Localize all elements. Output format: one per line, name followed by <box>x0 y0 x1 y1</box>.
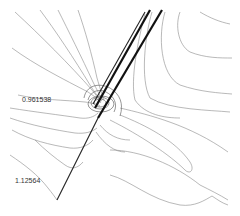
contour-label-1: 0.961538 <box>22 96 51 103</box>
contour-lines-lower-right <box>96 108 228 205</box>
contour-plot: 0.961538 1.12564 <box>0 0 240 216</box>
contour-lines-lower-left <box>10 108 98 200</box>
shock-lines <box>57 10 162 200</box>
contour-label-2: 1.12564 <box>15 177 40 184</box>
contour-lines-upper-left <box>12 10 104 106</box>
contour-lines-upper-right <box>133 12 232 118</box>
